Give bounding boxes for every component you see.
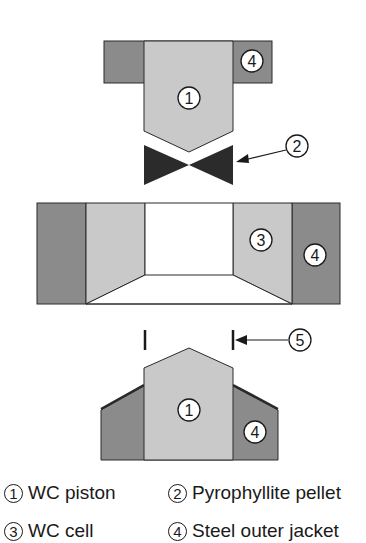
callout-cell-wc: 3 <box>250 229 272 251</box>
legend-number: 3 <box>4 522 23 541</box>
legend-item-pyrophyllite-pellet: 2 Pyrophyllite pellet <box>168 482 341 504</box>
callout-pellet: 2 <box>286 135 308 157</box>
legend-number: 4 <box>168 522 187 541</box>
svg-text:4: 4 <box>248 53 257 70</box>
svg-text:5: 5 <box>296 332 305 349</box>
legend-number: 1 <box>4 484 23 503</box>
svg-text:1: 1 <box>185 402 194 419</box>
callout-bottom-jacket: 4 <box>244 421 266 443</box>
svg-text:1: 1 <box>185 90 194 107</box>
legend-label: Steel outer jacket <box>192 520 339 542</box>
arrowhead-icon <box>236 154 249 163</box>
svg-text:4: 4 <box>251 424 260 441</box>
bottom-assembly: 1 4 <box>101 348 278 460</box>
callout-top-jacket: 4 <box>241 50 263 72</box>
legend-item-wc-piston: 1 WC piston <box>4 482 116 504</box>
legend-label: WC cell <box>28 520 93 542</box>
legend-label: Pyrophyllite pellet <box>192 482 341 504</box>
callout-top-piston: 1 <box>178 87 200 109</box>
legend-item-wc-cell: 3 WC cell <box>4 520 93 542</box>
arrowhead-icon <box>235 335 247 345</box>
top-assembly: 1 4 <box>104 41 272 152</box>
legend: 1 WC piston 2 Pyrophyllite pellet 3 WC c… <box>0 470 366 543</box>
cell-steel-jacket-left <box>37 203 86 304</box>
wc-cell-assembly: 3 4 <box>37 203 340 304</box>
callout-bottom-piston: 1 <box>178 399 200 421</box>
svg-text:4: 4 <box>311 247 320 264</box>
legend-number: 2 <box>168 484 187 503</box>
high-pressure-cell-diagram: 1 4 2 3 4 <box>0 0 366 470</box>
legend-label: WC piston <box>28 482 116 504</box>
svg-text:3: 3 <box>257 232 266 249</box>
callout-cell-jacket: 4 <box>304 244 326 266</box>
legend-item-steel-outer-jacket: 4 Steel outer jacket <box>168 520 339 542</box>
alignment-markers: 5 <box>145 329 311 351</box>
svg-text:2: 2 <box>293 138 302 155</box>
callout-marker: 5 <box>289 329 311 351</box>
pellet-arrow <box>244 150 286 160</box>
